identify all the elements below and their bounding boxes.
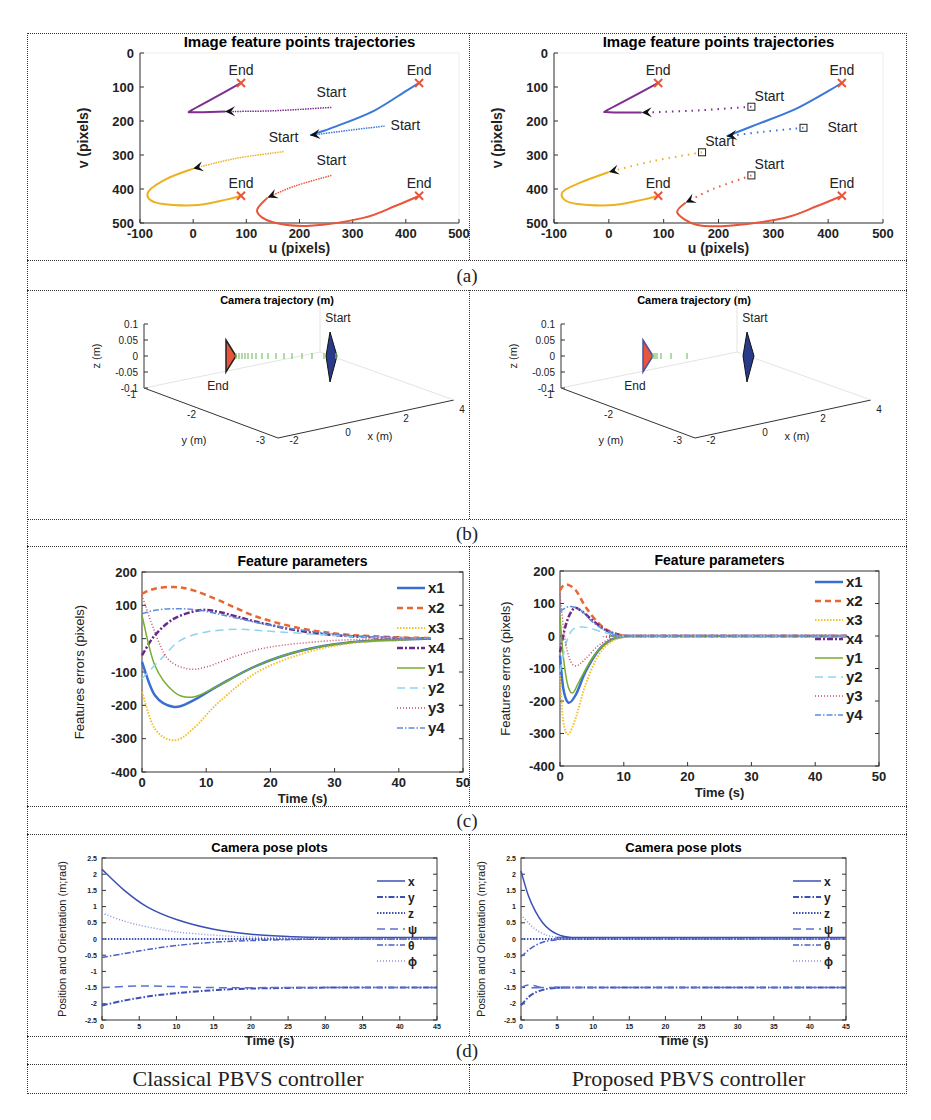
legend-label: y4 [428,719,445,736]
x-axis [695,400,871,438]
chart-feature-errors-proposed: Feature parameters2001000-100-200-300-40… [470,546,907,806]
start-label: Start [269,129,299,145]
trajectory-line [727,83,842,136]
legend-label: y4 [846,706,863,723]
y-tick-label: 0 [93,936,97,943]
start-marker-icon [748,172,755,179]
trajectory-start-segment [193,152,283,169]
row-divider [27,1064,907,1065]
end-marker-icon [415,192,423,200]
x-tick-label: 500 [872,226,894,241]
y-tick-label: 100 [526,80,548,95]
row-divider [27,806,907,807]
chart-feature-trajectories-proposed: Image feature points trajectories0100200… [470,33,907,260]
x-tick-label: 200 [289,226,311,241]
z-tick-label: 0.05 [536,335,556,346]
y-tick-label: 200 [115,565,137,580]
y-axis-label: Position and Orientation (m;rad) [475,861,487,1017]
y-tick-label: 1 [512,903,516,910]
row-divider [27,1036,907,1037]
legend-label: y [408,891,415,905]
chart-camera-pose-classical: Camera pose plots2.521.510.50-0.5-1-1.5-… [27,834,469,1036]
start-label: Start [742,311,768,325]
z-axis-label: z (m) [90,343,102,368]
caption-d: (d) [27,1040,907,1062]
start-label: Start [705,133,735,149]
y-tick-label: 100 [533,596,555,611]
legend-label: x4 [846,630,863,647]
y-tick-label: -3 [256,435,265,446]
legend-label: ϕ [824,955,833,969]
legend-label: x4 [428,639,445,656]
chart-feature-errors-classical: Feature parameters2001000-100-200-300-40… [27,546,469,806]
z-tick-label: 0.05 [119,335,139,346]
z-tick-label: -0.05 [532,367,555,378]
y-tick-label: -300 [111,731,137,746]
y-tick-label: 0 [512,936,516,943]
x-tick-label: 5 [555,1023,559,1030]
y-tick-label: 1 [93,903,97,910]
x-axis [278,400,454,438]
row-divider [27,260,907,261]
end-label: End [229,62,254,78]
y-tick-label: -100 [529,661,555,676]
y-tick-label: -400 [529,759,555,774]
x-tick-label: 10 [173,1023,181,1030]
start-label: Start [325,311,351,325]
trajectory-start-segment [609,152,702,172]
y-axis-label: v (pixels) [489,108,505,169]
trajectory-line [562,172,659,205]
x-tick-label: 45 [842,1023,850,1030]
caption-b: (b) [27,523,907,545]
y-axis-label: v (pixels) [75,108,91,169]
x-tick-label: 4 [876,404,882,415]
column-caption-classical: Classical PBVS controller [27,1066,469,1092]
end-marker-icon [838,192,846,200]
end-label: End [646,175,671,191]
column-caption-proposed: Proposed PBVS controller [470,1066,907,1092]
legend-label: y2 [846,668,863,685]
x-tick-label: 0 [190,226,197,241]
caption-c: (c) [27,810,907,832]
x-tick-label: 500 [448,226,470,241]
legend-label: θ [408,939,415,953]
y-tick-label: 2.5 [506,855,516,862]
x-axis-label: Time (s) [695,785,745,800]
x-tick-label: 2 [820,413,826,424]
legend-label: x [408,875,415,889]
x-tick-label: 4 [459,404,465,415]
start-label: Start [317,152,347,168]
y-tick-label: -0.5 [504,952,516,959]
start-label: Start [827,119,857,135]
end-camera-icon [226,340,236,372]
y-tick-label: -2.5 [504,1017,516,1024]
start-label: Start [317,84,347,100]
chart-title: Image feature points trajectories [184,33,416,50]
end-label: End [624,379,645,393]
x-axis-label: u (pixels) [688,240,749,256]
y-tick-label: 1.5 [506,887,516,894]
x-axis-label: u (pixels) [269,240,330,256]
end-marker-icon [237,79,245,87]
legend-label: y3 [846,687,863,704]
x-tick-label: 20 [263,775,277,790]
x-tick-label: 45 [433,1023,441,1030]
end-label: End [407,175,432,191]
z-tick-label: 0.1 [124,319,138,330]
row-divider [27,519,907,520]
z-tick-label: 0 [549,351,555,362]
y-tick-label: -1 [91,968,97,975]
y-tick-label: 0 [127,46,134,61]
y-tick-label: -1.5 [85,984,97,991]
chart-camera-trajectory-proposed: Camera trajectory (m)0.10.050-0.05-0.1z … [470,290,907,519]
trajectory-start-segment [686,175,752,202]
x-tick-label: 20 [247,1023,255,1030]
x-tick-label: 40 [808,769,822,784]
chart-title: Feature parameters [655,552,785,568]
x-tick-label: 40 [396,1023,404,1030]
end-label: End [646,62,671,78]
z-tick-label: -0.05 [115,367,138,378]
x-tick-label: 15 [210,1023,218,1030]
y-axis-label: Position and Orientation (m;rad) [56,861,68,1017]
direction-arrow-icon [683,194,696,207]
